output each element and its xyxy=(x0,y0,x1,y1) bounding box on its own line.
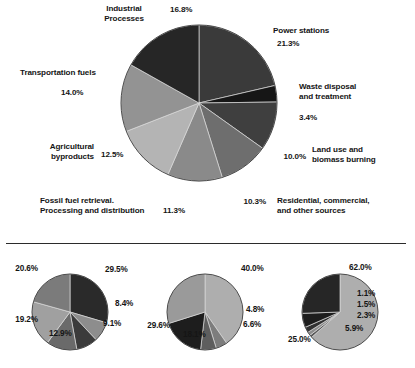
small2-value-3: 6.6% xyxy=(243,320,261,329)
value-industrial-processes: 16.8% xyxy=(170,5,192,14)
label-fossil-fuel: Fossil fuel retrieval. Processing and di… xyxy=(40,196,144,217)
label-transportation: Transportation fuels xyxy=(20,68,96,78)
label-residential: Residential, commercial, and other sourc… xyxy=(277,196,370,217)
small1-value-1: 29.5% xyxy=(105,265,128,274)
small2-value-5: 29.6% xyxy=(136,321,170,330)
value-fossil-fuel: 11.3% xyxy=(163,206,185,215)
label-agricultural: Agricultural byproducts xyxy=(24,142,94,163)
label-fossil-fuel-line2: Processing and distribution xyxy=(40,206,144,215)
value-land-use: 10.0% xyxy=(272,152,306,161)
small3-value-5: 5.9% xyxy=(345,324,363,333)
label-residential-line1: Residential, commercial, xyxy=(277,196,370,205)
label-land-use: Land use and biomass burning xyxy=(312,145,376,166)
value-residential: 10.3% xyxy=(232,197,266,206)
value-agricultural: 12.5% xyxy=(101,150,123,159)
label-residential-line2: and other sources xyxy=(277,206,345,215)
small1-value-5: 19.2% xyxy=(4,315,38,324)
value-waste-disposal: 3.4% xyxy=(299,113,317,122)
emissions-figure: Power stations 21.3%Waste disposal and t… xyxy=(0,0,415,368)
main-pie-slices: Power stations 21.3%Waste disposal and t… xyxy=(121,25,277,181)
small-pies-panel: 29.5%8.4%9.1%12.9%19.2%20.6% 40.0%4.8%6.… xyxy=(0,236,415,368)
label-agricultural-line2: byproducts xyxy=(51,152,94,161)
label-fossil-fuel-line1: Fossil fuel retrieval. xyxy=(40,196,114,205)
small1-value-2: 8.4% xyxy=(115,299,133,308)
small-pie-charts: 29.5%8.4%9.1%12.9%19.2%20.6% 40.0%4.8%6.… xyxy=(0,236,415,368)
label-power-stations: Power stations xyxy=(273,26,329,36)
label-waste-disposal: Waste disposal and treatment xyxy=(299,82,356,103)
small2-value-2: 4.8% xyxy=(246,305,264,314)
label-industrial-processes-line1: Industrial xyxy=(106,4,141,13)
label-industrial-processes-line2: Processes xyxy=(104,14,144,23)
small1-value-4: 12.9% xyxy=(49,329,89,338)
small1-value-3: 9.1% xyxy=(103,319,121,328)
value-power-stations: 21.3% xyxy=(277,39,299,48)
small3-value-3: 1.5% xyxy=(357,300,375,309)
label-waste-disposal-line2: and treatment xyxy=(299,92,351,101)
small3-value-6: 25.0% xyxy=(288,335,328,344)
small-pie-3-slice-6: 25.0% xyxy=(302,274,340,313)
label-land-use-line1: Land use and xyxy=(312,145,363,154)
label-land-use-line2: biomass burning xyxy=(312,155,376,164)
small-pie-1-slices: 29.5%8.4%9.1%12.9%19.2%20.6% xyxy=(32,274,108,350)
small3-value-1: 62.0% xyxy=(349,263,372,272)
small2-value-4: 18.1% xyxy=(183,330,223,339)
label-agricultural-line1: Agricultural xyxy=(50,142,94,151)
label-waste-disposal-line1: Waste disposal xyxy=(299,82,356,91)
small1-value-6: 20.6% xyxy=(4,264,38,273)
small3-value-2: 1.1% xyxy=(357,289,375,298)
small2-value-1: 40.0% xyxy=(241,264,264,273)
small3-value-4: 2.3% xyxy=(357,311,375,320)
main-pie-panel: Power stations 21.3%Waste disposal and t… xyxy=(0,0,415,236)
value-transportation: 14.0% xyxy=(61,88,83,97)
label-industrial-processes: Industrial Processes xyxy=(84,4,164,25)
